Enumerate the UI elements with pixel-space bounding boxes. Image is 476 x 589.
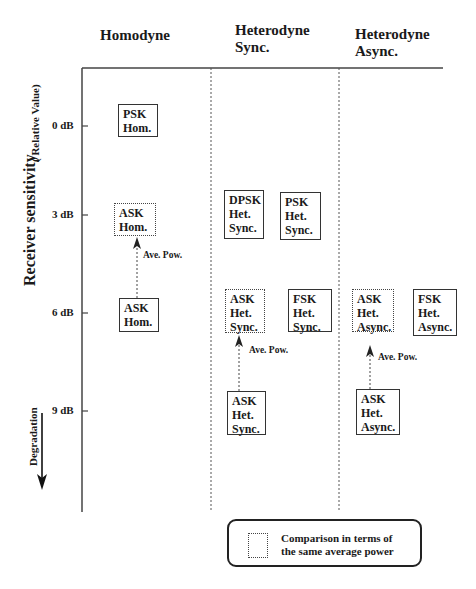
arrow-homodyne bbox=[133, 237, 141, 298]
box-fsk-het-sync: FSK Het. Sync. bbox=[288, 289, 332, 332]
legend-text: Comparison in terms of the same average … bbox=[281, 532, 394, 558]
arrow-label-het-async: Ave. Pow. bbox=[378, 352, 417, 362]
arrow-label-het-sync: Ave. Pow. bbox=[249, 345, 288, 355]
box-ask-het-sync-average-power: ASK Het. Sync. bbox=[225, 289, 265, 333]
box-ask-het-async: ASK Het. Async. bbox=[356, 389, 400, 435]
legend-dotted-box-swatch bbox=[248, 533, 268, 558]
degradation-label: Degradation bbox=[27, 407, 39, 466]
box-psk-het-sync: PSK Het. Sync. bbox=[280, 192, 321, 240]
box-psk-hom: PSK Hom. bbox=[118, 104, 158, 137]
tick-label-3db: 3 dB bbox=[52, 208, 74, 220]
tick-label-6db: 6 dB bbox=[52, 306, 74, 318]
box-ask-hom: ASK Hom. bbox=[119, 298, 159, 332]
box-dpsk-het-sync: DPSK Het. Sync. bbox=[224, 190, 264, 239]
arrow-het-sync bbox=[235, 335, 243, 391]
y-axis-subtitle: ( Relative Value) bbox=[29, 84, 41, 162]
box-fsk-het-async: FSK Het. Async. bbox=[413, 289, 457, 336]
tick-label-9db: 9 dB bbox=[52, 404, 74, 416]
box-ask-hom-average-power: ASK Hom. bbox=[114, 203, 156, 236]
box-ask-het-async-average-power: ASK Het. Async. bbox=[352, 289, 394, 332]
box-ask-het-sync: ASK Het. Sync. bbox=[227, 391, 266, 435]
tick-label-0db: 0 dB bbox=[52, 119, 74, 131]
legend: Comparison in terms of the same average … bbox=[227, 519, 422, 567]
y-axis-title: Receiver sensitivity bbox=[21, 154, 39, 286]
arrow-label-homodyne: Ave. Pow. bbox=[143, 250, 182, 260]
arrow-het-async bbox=[366, 345, 374, 389]
